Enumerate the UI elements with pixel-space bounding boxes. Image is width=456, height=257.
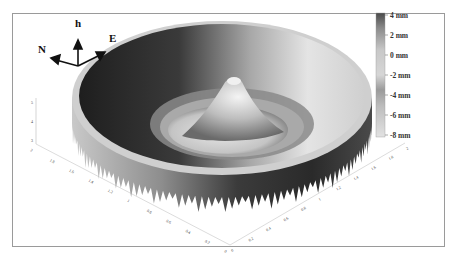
colorbar: [376, 13, 385, 137]
x-tick-label: 0.8: [146, 208, 153, 215]
colorbar-tick-label: -4 mm: [390, 91, 411, 100]
crater-surface: [72, 21, 372, 212]
x-tick-label: 1.6: [68, 168, 75, 175]
x-tick-label: 1: [127, 198, 131, 203]
z-tick-label: 5: [31, 100, 33, 105]
colorbar-tick-label: -6 mm: [390, 111, 411, 120]
up-arrow-icon: [74, 40, 82, 49]
colorbar-ticks: 4 mm2 mm0 mm-2 mm-4 mm-6 mm-8 mm: [385, 11, 411, 140]
y-tick-label: 1.2: [335, 185, 342, 192]
z-axis-ticks: 543: [31, 100, 33, 143]
colorbar-tick-label: 0 mm: [390, 51, 409, 60]
x-tick-label: 0.6: [165, 218, 172, 225]
y-tick-label: 1.6: [370, 164, 377, 171]
y-tick-label: 0.6: [283, 215, 290, 222]
compass-north-label: N: [38, 43, 46, 55]
x-tick-label: 1.4: [88, 178, 95, 185]
y-tick-label: 1: [318, 197, 322, 202]
x-tick-label: 0.2: [204, 238, 211, 245]
z-tick-label: 4: [31, 119, 33, 124]
x-tick-label: 1.2: [107, 188, 114, 195]
colorbar-tick-label: 4 mm: [390, 11, 409, 20]
y-tick-label: 0.4: [265, 226, 272, 233]
x-tick-label: 0: [224, 248, 228, 253]
colorbar-tick-label: -2 mm: [390, 71, 411, 80]
y-tick-label: 0.8: [300, 205, 307, 212]
x-tick-label: 0.4: [185, 228, 192, 235]
x-tick-label: 2: [30, 147, 34, 152]
compass-east-label: E: [109, 32, 116, 44]
surface-plot: 543 21.81.61.41.210.80.60.40.20 00.20.40…: [0, 0, 456, 257]
y-tick-label: 1.4: [353, 175, 360, 182]
central-peak-tip: [227, 77, 241, 85]
north-arrow-icon: [51, 55, 60, 64]
x-tick-label: 1.8: [49, 158, 56, 165]
compass-up-label: h: [75, 17, 81, 29]
y-tick-label: 0.2: [248, 236, 255, 243]
z-tick-label: 3: [31, 138, 33, 143]
colorbar-tick-label: 2 mm: [390, 31, 409, 40]
y-tick-label: 2: [405, 146, 409, 151]
y-tick-label: 1.8: [388, 154, 395, 161]
y-tick-label: 0: [230, 248, 234, 253]
colorbar-tick-label: -8 mm: [390, 131, 411, 140]
